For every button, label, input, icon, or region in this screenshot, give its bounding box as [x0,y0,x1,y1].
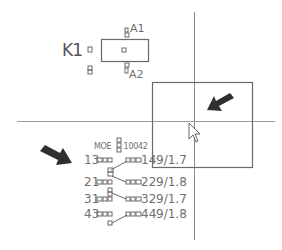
contact-left-number: 13 [84,154,99,166]
arrow-down-right-icon [40,145,72,165]
arrow-down-left-icon [207,93,234,111]
contact-block-label: MOE 10042 [94,143,148,151]
contact-right-number: 14 [141,154,156,166]
component-designator: K1 [62,42,82,59]
contact-block-symbol[interactable] [97,138,141,225]
contact-left-number: 43 [84,208,99,220]
part-prefix: MOE [94,142,111,151]
cross-reference: 9/1.7 [156,154,187,166]
part-number: 10042 [124,142,148,151]
contact-right-number: 32 [141,193,156,205]
cross-reference: 9/1.8 [156,208,187,220]
schematic-canvas[interactable]: K1 A1 A2 MOE 10042 13 14 9/1.7 21 22 9/1… [0,0,282,250]
contact-right-number: 44 [141,208,156,220]
contact-right-number: 22 [141,176,156,188]
pin-label-a1: A1 [130,23,145,34]
pin-label-a2: A2 [129,69,144,80]
contact-left-number: 21 [84,176,99,188]
cross-reference: 9/1.8 [156,176,187,188]
contact-left-number: 31 [84,193,99,205]
cross-reference: 9/1.7 [156,193,187,205]
